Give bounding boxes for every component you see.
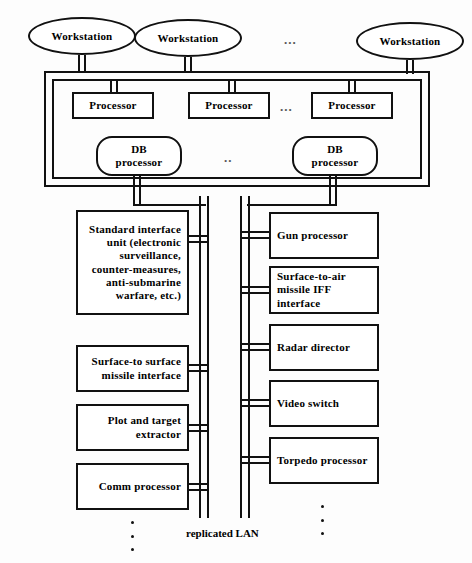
processor-label-3: Processor <box>328 99 375 112</box>
workstation-label-3: Workstation <box>380 35 441 47</box>
processor-ellipsis: ... <box>280 99 293 115</box>
db-drop-stem-1b <box>139 176 141 206</box>
processor-node-3[interactable]: Processor <box>311 92 393 119</box>
top-bus-outer-top <box>44 71 430 73</box>
db-drop-elbow-2 <box>247 204 335 206</box>
tap-right-4b <box>241 405 271 407</box>
workstation-node-2[interactable]: Workstation <box>134 19 242 57</box>
tap-right-4a <box>241 399 271 401</box>
diagram-canvas: Workstation Workstation Workstation ... … <box>0 0 472 563</box>
unit-standard-interface-unit[interactable]: Standard interface unit (electronic surv… <box>76 210 189 315</box>
top-bus-inner-left <box>52 79 54 179</box>
unit-plot-and-target-extractor[interactable]: Plot and target extractor <box>76 404 189 451</box>
tap-right-5a <box>241 456 271 458</box>
db-drop-stem-1a <box>133 176 135 206</box>
unit-radar-director[interactable]: Radar director <box>269 324 379 371</box>
tap-right-2a <box>241 286 271 288</box>
lan-bus-left-strand-a[interactable] <box>199 196 201 518</box>
processor-label-2: Processor <box>205 99 252 112</box>
lan-bus-right-strand-b[interactable] <box>248 196 250 518</box>
tap-left-1b <box>188 241 209 243</box>
tap-left-1a <box>188 235 209 237</box>
db-processor-ellipsis: .. <box>224 150 233 166</box>
tap-left-2b <box>188 370 209 372</box>
unit-label-surface-to-air-missile-iff-interface: Surface-to-air missile IFF interface <box>277 270 377 310</box>
top-bus-inner-top <box>52 79 422 81</box>
db-drop-stem-2b <box>335 176 337 206</box>
workstation-node-1[interactable]: Workstation <box>28 17 136 55</box>
left-column-ellipsis <box>130 521 134 551</box>
unit-gun-processor[interactable]: Gun processor <box>269 212 379 259</box>
db-drop-stem-2a <box>329 176 331 206</box>
top-bus-outer-right <box>428 71 430 187</box>
workstation-node-3[interactable]: Workstation <box>356 22 464 60</box>
db-drop-elbow-1 <box>133 204 206 206</box>
tap-left-2a <box>188 364 209 366</box>
tap-left-4b <box>188 489 209 491</box>
tap-left-3a <box>188 424 209 426</box>
top-bus-inner-right <box>420 79 422 179</box>
top-bus-outer-left <box>44 71 46 187</box>
tap-right-3a <box>241 343 271 345</box>
workstation-label-1: Workstation <box>52 30 113 42</box>
right-column-ellipsis <box>320 505 324 535</box>
unit-label-video-switch: Video switch <box>277 397 339 410</box>
db-processor-label-1-line1: DB <box>131 143 147 155</box>
workstation-label-2: Workstation <box>158 32 219 44</box>
processor-label-1: Processor <box>89 99 136 112</box>
top-bus-inner-bottom <box>52 177 422 179</box>
workstation-ellipsis: ... <box>284 32 297 48</box>
lan-bus-left-strand-b[interactable] <box>207 196 209 518</box>
tap-left-4a <box>188 483 209 485</box>
tap-right-3b <box>241 349 271 351</box>
tap-right-1b <box>241 237 271 239</box>
unit-torpedo-processor[interactable]: Torpedo processor <box>269 437 379 484</box>
db-processor-node-1[interactable]: DB processor <box>96 136 182 176</box>
tap-left-3b <box>188 430 209 432</box>
db-processor-node-2[interactable]: DB processor <box>292 136 378 176</box>
unit-label-comm-processor: Comm processor <box>99 480 181 493</box>
db-processor-label-1-line2: processor <box>116 156 163 168</box>
db-processor-label-2-line2: processor <box>312 156 359 168</box>
unit-label-plot-and-target-extractor: Plot and target extractor <box>78 414 181 440</box>
unit-comm-processor[interactable]: Comm processor <box>76 463 189 510</box>
tap-right-2b <box>241 292 271 294</box>
top-bus-outer-bottom <box>44 185 430 187</box>
unit-surface-to-air-missile-iff-interface[interactable]: Surface-to-air missile IFF interface <box>269 266 379 314</box>
replicated-lan-label: replicated LAN <box>186 527 259 539</box>
unit-label-surface-to-surface-missile-interface: Surface-to surface missile interface <box>78 355 181 381</box>
unit-label-standard-interface-unit: Standard interface unit (electronic surv… <box>78 223 181 302</box>
unit-label-gun-processor: Gun processor <box>277 229 348 242</box>
unit-label-radar-director: Radar director <box>277 341 350 354</box>
tap-right-5b <box>241 462 271 464</box>
unit-label-torpedo-processor: Torpedo processor <box>277 454 368 467</box>
unit-surface-to-surface-missile-interface[interactable]: Surface-to surface missile interface <box>76 345 189 392</box>
tap-right-1a <box>241 231 271 233</box>
lan-bus-right-strand-a[interactable] <box>240 196 242 518</box>
processor-node-1[interactable]: Processor <box>72 92 154 119</box>
processor-node-2[interactable]: Processor <box>188 92 270 119</box>
unit-video-switch[interactable]: Video switch <box>269 380 379 427</box>
db-processor-label-2-line1: DB <box>327 143 343 155</box>
